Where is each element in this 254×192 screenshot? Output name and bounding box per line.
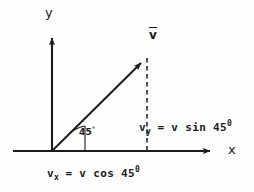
axis-label-x: x [228, 143, 236, 156]
formula-vy-symbol: v [139, 121, 146, 134]
formula-vy-expression: v sin [171, 121, 206, 134]
vector-label-glyph: v [149, 29, 157, 41]
formula-vy-degree: 0 [227, 119, 232, 128]
formula-vy-angle: 45 [213, 121, 227, 134]
formula-vx-expression: v cos [79, 167, 114, 180]
formula-vx-symbol: v [47, 167, 54, 180]
formula-vx-angle: 45 [121, 167, 135, 180]
angle-label: 45° [79, 126, 95, 137]
velocity-vector-arrow [52, 63, 141, 151]
formula-vy-equals: = [157, 121, 164, 134]
angle-degree-symbol: ° [92, 125, 95, 132]
vector-components-figure: y x v 45° vy = v sin 450 vx = v cos 450 [0, 0, 254, 192]
formula-vy: vy = v sin 450 [139, 120, 232, 136]
formula-vx-degree: 0 [135, 165, 140, 174]
angle-value: 45 [79, 127, 92, 137]
vector-label: v [149, 27, 157, 41]
formula-vx-equals: = [65, 167, 72, 180]
formula-vx: vx = v cos 450 [47, 166, 140, 182]
axis-label-y: y [45, 6, 53, 19]
diagram-canvas [0, 0, 254, 192]
